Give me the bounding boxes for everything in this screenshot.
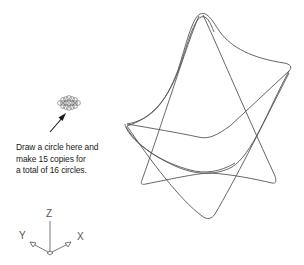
wireframe-shape — [125, 13, 291, 218]
x-axis-label: X — [77, 232, 84, 242]
ucs-axis-icon — [30, 221, 71, 255]
y-axis-label: Y — [19, 231, 26, 241]
instruction-callout: Draw a circle here and make 15 copies fo… — [16, 141, 106, 176]
callout-line-1: Draw a circle here and — [16, 141, 106, 153]
drawing-canvas — [0, 0, 304, 265]
callout-line-3: a total of 16 circles. — [16, 164, 106, 176]
callout-line-2: make 15 copies for — [16, 153, 106, 165]
z-axis-label: Z — [46, 209, 52, 219]
circle-cluster-icon — [58, 96, 81, 111]
callout-arrow-icon — [50, 113, 66, 132]
